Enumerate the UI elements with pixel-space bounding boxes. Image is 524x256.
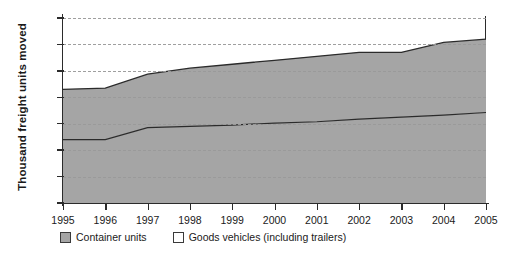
legend-item-goods-vehicles[interactable]: Goods vehicles (including trailers): [173, 231, 347, 243]
x-axis-label: 2004: [421, 214, 467, 226]
legend-swatch-icon: [173, 232, 184, 243]
legend-label: Container units: [76, 231, 147, 243]
x-axis-label: 2002: [336, 214, 382, 226]
x-axis-tick: [359, 203, 360, 210]
legend-swatch-icon: [60, 232, 71, 243]
x-axis-label: 2001: [294, 214, 340, 226]
gridline: [63, 44, 486, 45]
y-axis-title: Thousand freight units moved: [16, 12, 32, 202]
y-axis-tick: [57, 176, 64, 177]
y-axis-tick: [57, 97, 64, 98]
area-chart: Thousand freight units moved 02,0004,000…: [0, 0, 524, 256]
y-axis-tick: [57, 44, 64, 45]
x-axis-label: 1996: [82, 214, 128, 226]
x-axis-label: 2003: [378, 214, 424, 226]
x-axis-tick: [317, 203, 318, 210]
x-axis-tick: [401, 203, 402, 210]
y-axis-tick: [57, 123, 64, 124]
x-axis-label: 1998: [167, 214, 213, 226]
y-axis-tick: [57, 70, 64, 71]
x-axis-label: 1999: [209, 214, 255, 226]
y-axis-tick: [57, 17, 64, 18]
gridline: [63, 71, 486, 72]
x-axis-label: 1997: [125, 214, 171, 226]
gridline: [63, 124, 486, 125]
x-axis-tick: [486, 203, 487, 210]
x-axis-tick: [444, 203, 445, 210]
plot-area: 02,0004,0006,0008,00010,00012,00014,0001…: [63, 18, 486, 203]
x-axis-tick: [275, 203, 276, 210]
gridline: [63, 150, 486, 151]
legend-item-container-units[interactable]: Container units: [60, 231, 147, 243]
y-axis-tick: [57, 149, 64, 150]
x-axis-tick: [232, 203, 233, 210]
legend: Container units Goods vehicles (includin…: [60, 230, 346, 244]
x-axis-label: 2000: [252, 214, 298, 226]
x-axis-tick: [105, 203, 106, 210]
x-axis-tick: [190, 203, 191, 210]
x-axis-tick: [63, 203, 64, 210]
series-svg: [63, 18, 486, 203]
x-axis-tick: [148, 203, 149, 210]
legend-label: Goods vehicles (including trailers): [189, 231, 347, 243]
x-axis-label: 2005: [463, 214, 509, 226]
gridline: [63, 177, 486, 178]
x-axis-label: 1995: [40, 214, 86, 226]
gridline: [63, 18, 486, 19]
gridline: [63, 97, 486, 98]
